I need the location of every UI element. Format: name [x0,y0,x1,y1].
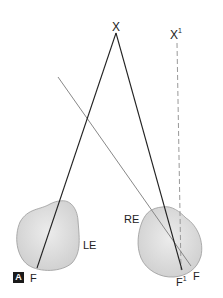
left-fovea-label: F [30,273,37,284]
diagram-canvas [0,0,223,298]
right-fovea-prime-base: F [176,276,183,288]
left-eye-label: LE [83,240,96,251]
right-eye-label: RE [124,214,139,225]
right-fovea-prime-sup: 1 [183,275,187,282]
fixation-point-label: X [112,21,120,33]
right-fovea-prime-label: F1 [176,277,187,288]
panel-label-badge: A [13,272,24,283]
right-eye-shape [138,207,202,277]
fixation-prime-base: X [170,28,178,42]
right-fovea-label: F [193,271,200,282]
fixation-prime-label: X1 [170,29,182,41]
fixation-prime-sup: 1 [178,27,182,34]
